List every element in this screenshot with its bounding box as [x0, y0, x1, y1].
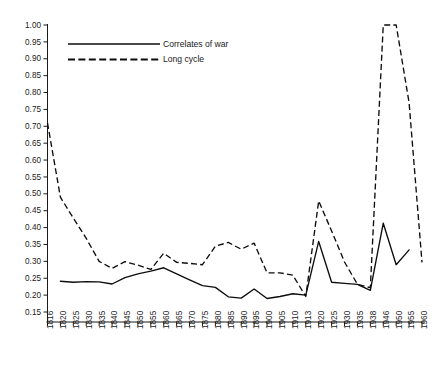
x-tick-label: 1960 — [420, 310, 429, 329]
series-line-correlates-of-war — [60, 223, 409, 298]
y-tick-label: 0.65 — [25, 139, 41, 148]
x-tick-label: 1946 — [382, 310, 391, 329]
y-tick-label: 0.15 — [25, 308, 41, 317]
x-tick-label: 1840 — [110, 310, 119, 329]
x-tick-label: 1925 — [330, 310, 339, 329]
y-tick-label: 0.95 — [25, 38, 41, 47]
x-tick-label: 1930 — [343, 310, 352, 329]
x-tick-label: 1855 — [149, 310, 158, 329]
x-tick-label: 1938 — [369, 310, 378, 329]
y-tick-label: 0.60 — [25, 156, 41, 165]
x-tick-label: 1860 — [162, 310, 171, 329]
x-tick-label: 1900 — [265, 310, 274, 329]
x-tick-label: 1820 — [59, 310, 68, 329]
series-line-long-cycle — [48, 25, 423, 296]
chart-legend: Correlates of warLong cycle — [68, 39, 229, 65]
x-tick-label: 1913 — [304, 310, 313, 329]
x-tick-label: 1850 — [136, 310, 145, 329]
y-axis: 1.000.950.900.850.800.750.700.650.600.55… — [25, 21, 47, 322]
x-tick-label: 1880 — [214, 310, 223, 329]
x-tick-label: 1865 — [175, 310, 184, 329]
x-tick-label: 1870 — [188, 310, 197, 329]
x-tick-label: 1955 — [407, 310, 416, 329]
x-tick-label: 1895 — [252, 310, 261, 329]
line-chart: 1.000.950.900.850.800.750.700.650.600.55… — [0, 0, 437, 369]
y-tick-label: 1.00 — [25, 21, 41, 30]
y-tick-label: 0.20 — [25, 291, 41, 300]
x-tick-label: 1910 — [291, 310, 300, 329]
y-tick-label: 0.35 — [25, 240, 41, 249]
y-tick-label: 0.50 — [25, 189, 41, 198]
chart-container: 1.000.950.900.850.800.750.700.650.600.55… — [0, 0, 437, 369]
y-tick-label: 0.45 — [25, 206, 41, 215]
legend-label-1: Correlates of war — [163, 39, 229, 49]
y-tick-label: 0.75 — [25, 105, 41, 114]
y-tick-label: 0.85 — [25, 71, 41, 80]
x-tick-label: 1885 — [227, 310, 236, 329]
x-tick-label: 1950 — [395, 310, 404, 329]
x-tick-label: 1845 — [123, 310, 132, 329]
x-axis: 1816182018251830183518401845185018551860… — [46, 310, 430, 329]
y-tick-label: 0.25 — [25, 274, 41, 283]
x-tick-label: 1920 — [317, 310, 326, 329]
y-tick-label: 0.90 — [25, 54, 41, 63]
x-tick-label: 1825 — [72, 310, 81, 329]
x-tick-label: 1935 — [356, 310, 365, 329]
x-tick-label: 1816 — [46, 310, 55, 329]
x-tick-label: 1830 — [85, 310, 94, 329]
x-tick-label: 1890 — [240, 310, 249, 329]
x-tick-label: 1835 — [98, 310, 107, 329]
y-tick-label: 0.55 — [25, 173, 41, 182]
data-series-group — [48, 25, 423, 298]
y-tick-label: 0.30 — [25, 257, 41, 266]
legend-label-2: Long cycle — [163, 54, 204, 64]
x-tick-label: 1875 — [201, 310, 210, 329]
y-tick-label: 0.70 — [25, 122, 41, 131]
x-tick-label: 1905 — [278, 310, 287, 329]
y-tick-label: 0.40 — [25, 223, 41, 232]
y-tick-label: 0.80 — [25, 88, 41, 97]
